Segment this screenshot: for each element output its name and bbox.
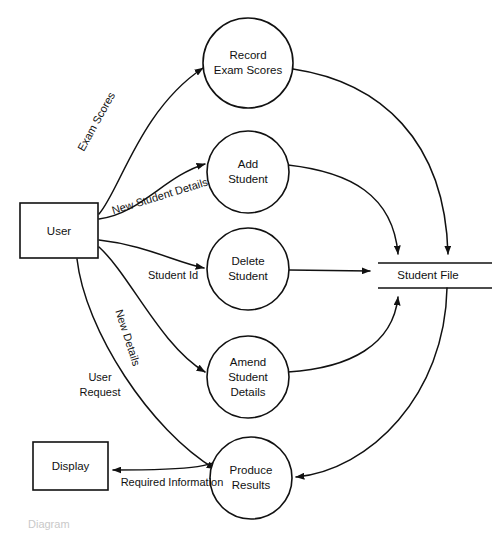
process-2-label-line-2: Student (228, 173, 268, 185)
flow-line-delete-to-store (289, 270, 370, 271)
process-3-label-line-1: Delete (231, 255, 264, 267)
process-3-circle[interactable] (207, 228, 289, 310)
process-add-student[interactable]: Add Student (207, 131, 289, 213)
flow-line-new-details (99, 247, 205, 372)
process-1-label-line-2: Exam Scores (214, 64, 283, 76)
process-4-label-line-1: Amend (230, 356, 266, 368)
process-delete-student[interactable]: Delete Student (207, 228, 289, 310)
data-store-student-file[interactable]: Student File (378, 263, 492, 288)
external-entity-display[interactable]: Display (33, 442, 108, 490)
flow-label-new-student-details: New Student Details (110, 176, 209, 217)
flow-label-new-details: New Details (113, 308, 143, 368)
flow-label-required-information: Required Information (121, 476, 224, 488)
display-label: Display (52, 460, 90, 472)
flow-line-amend-to-store (288, 297, 398, 372)
flow-line-record-to-store (293, 69, 448, 254)
process-3-label-line-2: Student (228, 270, 268, 282)
flow-label-user-request-line-1: User (88, 371, 112, 383)
process-4-label-line-2: Student (228, 371, 268, 383)
process-2-circle[interactable] (207, 131, 289, 213)
diagram-caption: Diagram (28, 518, 70, 530)
process-5-label-line-1: Produce (230, 464, 273, 476)
process-2-label-line-1: Add (238, 158, 258, 170)
process-4-label-line-3: Details (230, 386, 265, 398)
external-entity-user[interactable]: User (20, 203, 98, 258)
user-label: User (47, 225, 71, 237)
flow-line-store-to-produce (296, 288, 447, 477)
flow-label-exam-scores: Exam Scores (75, 90, 117, 153)
process-1-circle[interactable] (203, 18, 293, 108)
flow-label-student-id: Student Id (148, 269, 198, 281)
process-amend-student-details[interactable]: Amend Student Details (207, 336, 289, 418)
flow-label-user-request-line-2: Request (80, 386, 121, 398)
process-record-exam-scores[interactable]: Record Exam Scores (203, 18, 293, 108)
process-5-label-line-2: Results (232, 479, 271, 491)
process-1-label-line-1: Record (229, 49, 266, 61)
flow-line-add-to-store (288, 165, 398, 254)
dfd-svg: User Display Record Exam Scores Add Stud… (0, 0, 492, 533)
data-store-label: Student File (397, 269, 458, 281)
data-flow-diagram-canvas: User Display Record Exam Scores Add Stud… (0, 0, 492, 533)
